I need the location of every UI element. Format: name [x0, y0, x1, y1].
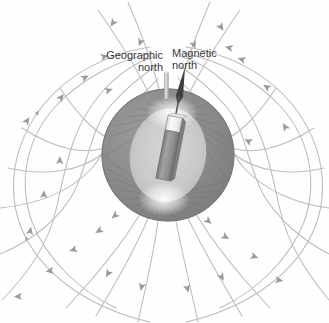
- arrow-head: [203, 216, 214, 227]
- geographic-axis-cap: [164, 72, 168, 74]
- arrow-head: [93, 226, 104, 236]
- field-line: [66, 214, 140, 308]
- arrow-head: [104, 86, 114, 95]
- arrow-head: [250, 252, 260, 261]
- field-lines-bottom: [66, 214, 270, 322]
- field-line: [196, 214, 270, 308]
- arrow-head: [216, 22, 226, 33]
- geographic-north-axis: [164, 72, 168, 99]
- arrow-head: [45, 267, 54, 275]
- field-line: [138, 221, 158, 322]
- magnetic-field-figure: Geographic north Magnetic north: [0, 0, 329, 323]
- arrow-head: [220, 232, 231, 242]
- arrow-head: [280, 121, 290, 132]
- arrow-head: [109, 210, 120, 221]
- arrow-head: [103, 268, 113, 279]
- south-pole-halo-icon: [138, 182, 190, 216]
- geographic-north-label: Geographic north: [99, 50, 163, 73]
- magnetic-north-label: Magnetic north: [172, 48, 234, 71]
- arrow-head: [14, 293, 22, 300]
- field-line: [128, 2, 160, 92]
- arrow-head: [135, 38, 145, 48]
- arrow-head: [68, 245, 78, 254]
- arrow-head: [22, 115, 32, 126]
- field-diagram-svg: [0, 0, 329, 323]
- arrow-head: [275, 276, 284, 284]
- arrow-head: [40, 190, 48, 198]
- geographic-axis-rod: [164, 73, 168, 99]
- field-line: [176, 221, 198, 322]
- arrow-head: [56, 156, 63, 164]
- arrow-head: [26, 226, 34, 235]
